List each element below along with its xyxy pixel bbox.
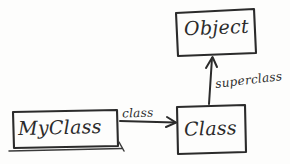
edge-label-class: class — [122, 106, 154, 119]
node-label-object: Object — [184, 17, 250, 39]
node-label-class: Class — [184, 118, 237, 138]
diagram-canvas: MyClass Class Object class superclass — [0, 0, 290, 164]
node-label-myclass: MyClass — [18, 117, 102, 138]
